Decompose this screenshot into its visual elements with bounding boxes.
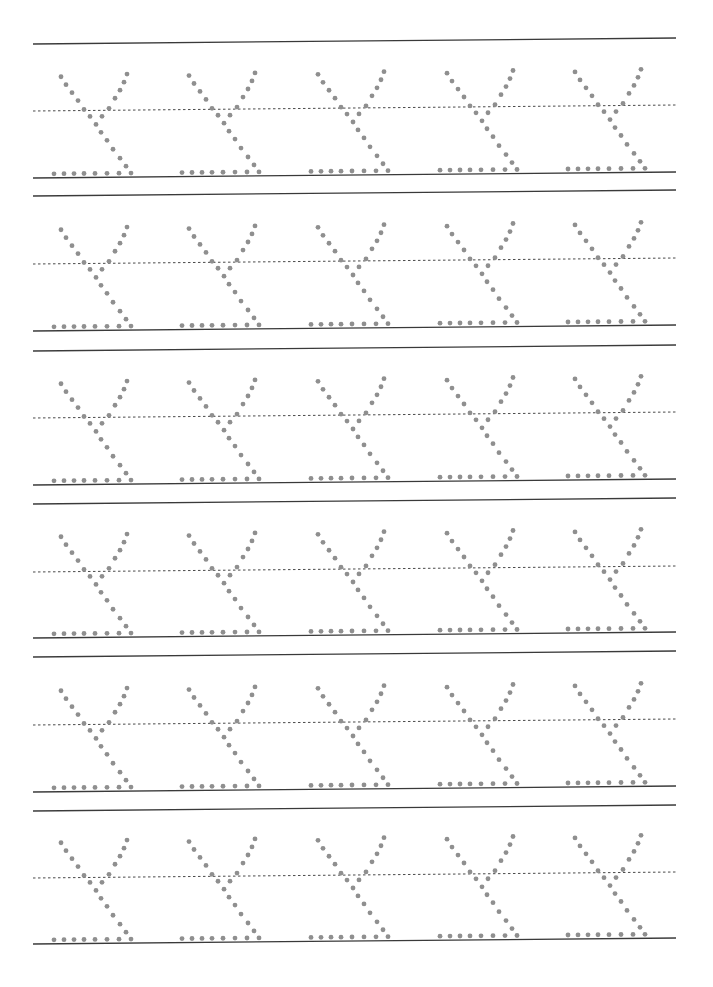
trace-dot bbox=[129, 631, 134, 636]
trace-dot bbox=[386, 934, 391, 939]
trace-dot bbox=[117, 631, 122, 636]
trace-dot bbox=[438, 628, 443, 633]
trace-dot bbox=[76, 251, 81, 256]
trace-dot bbox=[486, 724, 491, 729]
trace-dot bbox=[374, 628, 379, 633]
trace-dot bbox=[187, 226, 192, 231]
trace-dot bbox=[480, 884, 485, 889]
trace-dot bbox=[70, 550, 75, 555]
trace-dot bbox=[462, 709, 467, 714]
trace-dot bbox=[504, 152, 509, 157]
trace-dot bbox=[362, 783, 367, 788]
trace-dot bbox=[309, 476, 314, 481]
trace-dot bbox=[450, 693, 455, 698]
trace-dot bbox=[491, 900, 496, 905]
trace-dot bbox=[480, 271, 485, 276]
trace-dot bbox=[180, 323, 185, 328]
trace-dot bbox=[105, 752, 110, 757]
trace-dot bbox=[503, 320, 508, 325]
practice-row bbox=[33, 38, 676, 178]
trace-dot bbox=[105, 324, 110, 329]
trace-dot bbox=[246, 308, 251, 313]
trace-dot bbox=[309, 935, 314, 940]
trace-dot bbox=[239, 912, 244, 917]
dotted-letter-y bbox=[180, 224, 262, 328]
trace-dot bbox=[504, 305, 509, 310]
trace-dot bbox=[235, 105, 240, 110]
trace-dot bbox=[82, 478, 87, 483]
trace-dot bbox=[493, 716, 498, 721]
trace-dot bbox=[117, 478, 122, 483]
trace-dot bbox=[246, 547, 251, 552]
trace-dot bbox=[70, 90, 75, 95]
trace-dot bbox=[99, 283, 104, 288]
trace-dot bbox=[625, 449, 630, 454]
trace-dot bbox=[241, 402, 246, 407]
trace-dot bbox=[364, 256, 369, 261]
trace-dot bbox=[94, 429, 99, 434]
trace-dot bbox=[129, 785, 134, 790]
trace-dot bbox=[216, 266, 221, 271]
trace-dot bbox=[64, 696, 69, 701]
trace-dot bbox=[105, 631, 110, 636]
trace-dot bbox=[619, 747, 624, 752]
trace-dot bbox=[93, 937, 98, 942]
trace-dot bbox=[619, 899, 624, 904]
trace-dot bbox=[62, 171, 67, 176]
trace-dot bbox=[448, 475, 453, 480]
trace-dot bbox=[216, 573, 221, 578]
dotted-letter-y bbox=[438, 834, 520, 938]
trace-dot bbox=[386, 321, 391, 326]
trace-dot bbox=[586, 473, 591, 478]
trace-dot bbox=[596, 868, 601, 873]
trace-dot bbox=[210, 259, 215, 264]
trace-dot bbox=[576, 320, 581, 325]
trace-dot bbox=[233, 444, 238, 449]
trace-dot bbox=[368, 297, 373, 302]
trace-dot bbox=[468, 168, 473, 173]
trace-dot bbox=[241, 861, 246, 866]
trace-dot bbox=[235, 719, 240, 724]
trace-dot bbox=[198, 242, 203, 247]
dotted-letter-y bbox=[180, 71, 262, 175]
trace-dot bbox=[327, 241, 332, 246]
trace-dot bbox=[368, 144, 373, 149]
trace-dot bbox=[113, 96, 118, 101]
trace-dot bbox=[458, 321, 463, 326]
trace-dot bbox=[357, 265, 362, 270]
trace-dot bbox=[52, 478, 57, 483]
trace-dot bbox=[368, 451, 373, 456]
trace-dot bbox=[122, 846, 127, 851]
trace-dot bbox=[368, 604, 373, 609]
trace-dot bbox=[379, 230, 384, 235]
trace-dot bbox=[486, 876, 491, 881]
trace-dot bbox=[76, 864, 81, 869]
trace-dot bbox=[105, 785, 110, 790]
trace-dot bbox=[515, 167, 520, 172]
trace-dot bbox=[228, 879, 233, 884]
trace-dot bbox=[370, 859, 375, 864]
trace-dot bbox=[573, 377, 578, 382]
trace-dot bbox=[596, 255, 601, 260]
trace-dot bbox=[221, 784, 226, 789]
trace-dot bbox=[62, 785, 67, 790]
trace-dot bbox=[632, 390, 637, 395]
trace-dot bbox=[474, 263, 479, 268]
trace-dot bbox=[456, 394, 461, 399]
trace-dot bbox=[70, 397, 75, 402]
trace-dot bbox=[375, 851, 380, 856]
dotted-letter-y bbox=[52, 225, 134, 329]
trace-dot bbox=[221, 477, 226, 482]
trace-dot bbox=[480, 118, 485, 123]
trace-dot bbox=[382, 683, 387, 688]
trace-dot bbox=[245, 170, 250, 175]
trace-dot bbox=[375, 919, 380, 924]
trace-dot bbox=[216, 113, 221, 118]
trace-dot bbox=[82, 171, 87, 176]
trace-dot bbox=[643, 626, 648, 631]
trace-dot bbox=[497, 603, 502, 608]
dashed-midline bbox=[33, 566, 676, 572]
trace-dot bbox=[241, 95, 246, 100]
trace-dot bbox=[200, 323, 205, 328]
trace-dot bbox=[586, 780, 591, 785]
